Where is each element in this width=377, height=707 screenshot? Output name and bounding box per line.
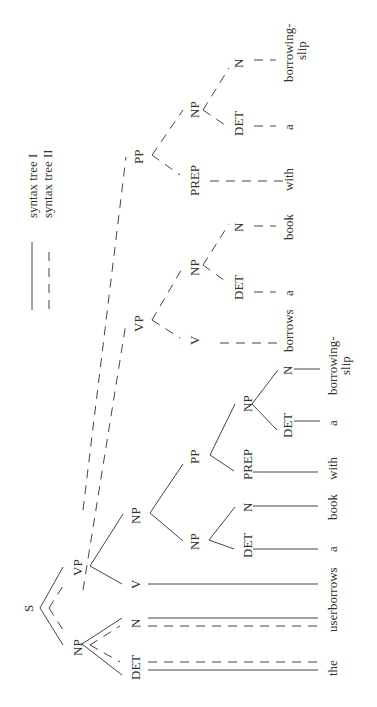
word2-borrows: borrows <box>281 309 296 352</box>
word2-with: with <box>281 167 296 191</box>
word-the: the <box>325 660 340 676</box>
node-n-user: N <box>128 618 143 628</box>
node-np-inner: NP <box>187 533 202 550</box>
node2-det: DET <box>231 275 246 300</box>
tree1-words: the user borrows a book with a borrowing… <box>325 337 353 677</box>
tree1-edges <box>40 369 320 675</box>
node-det-a: DET <box>240 533 255 558</box>
node2-det2: DET <box>231 111 246 136</box>
node-np-object: NP <box>128 507 143 524</box>
node2-pp: PP <box>131 150 146 164</box>
word-a2: a <box>325 420 340 426</box>
word-book: book <box>325 494 340 521</box>
node2-n: N <box>231 222 246 232</box>
tree2-edges <box>49 60 318 662</box>
tree1-nodes: S NP VP DET N V NP NP DET N PP PREP NP D… <box>21 365 295 680</box>
word-borrows: borrows <box>325 567 340 610</box>
node-n-borrowing-slip: N <box>280 365 295 375</box>
node2-vp: VP <box>131 315 146 332</box>
node2-np-pp: NP <box>187 101 202 118</box>
node-n-book: N <box>240 502 255 512</box>
word2-a2: a <box>281 124 296 130</box>
node2-np: NP <box>187 259 202 276</box>
word-user: user <box>325 610 340 632</box>
node2-prep: PREP <box>187 165 202 196</box>
node-s: S <box>21 605 36 612</box>
node-vp: VP <box>70 559 85 576</box>
node-det-a2: DET <box>280 413 295 438</box>
word2-book: book <box>281 214 296 241</box>
node-prep-with: PREP <box>240 449 255 480</box>
node-np-subject: NP <box>70 639 85 656</box>
legend-label-tree2: syntax tree II <box>40 149 55 218</box>
node-v-borrows: V <box>128 579 143 589</box>
node-det-the: DET <box>128 655 143 680</box>
syntax-tree-diagram: syntax tree I syntax tree II <box>0 0 377 707</box>
tree2-words: borrows a book with a borrowing- slip <box>281 24 309 353</box>
word-slip: slip <box>338 356 353 375</box>
word2-slip: slip <box>294 41 309 60</box>
node-np-pp: NP <box>240 395 255 412</box>
word-with: with <box>325 456 340 480</box>
legend-label-tree1: syntax tree I <box>25 154 40 218</box>
tree2-nodes: VP V NP DET N PP PREP NP DET N <box>131 58 246 345</box>
node2-n2: N <box>231 58 246 68</box>
word2-a: a <box>281 290 296 296</box>
word-a: a <box>325 546 340 552</box>
legend: syntax tree I syntax tree II <box>25 149 55 310</box>
node2-v: V <box>187 335 202 345</box>
node-pp: PP <box>187 450 202 464</box>
